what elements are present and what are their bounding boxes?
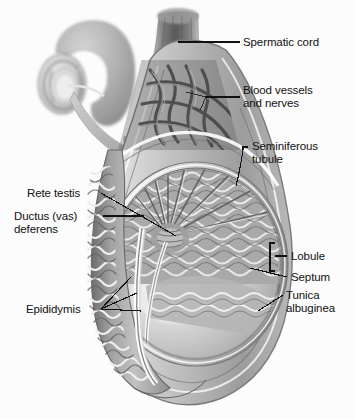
- anatomy-figure: Spermatic cord Blood vessels and nerves …: [0, 0, 354, 419]
- rete-testis: [151, 223, 189, 253]
- label-blood-vessels-line2: and nerves: [243, 97, 299, 110]
- label-tunica-line2: albuginea: [286, 302, 335, 315]
- label-spermatic-cord: Spermatic cord: [243, 36, 319, 49]
- label-blood-vessels-line1: Blood vessels: [243, 84, 313, 97]
- label-septum: Septum: [291, 271, 330, 284]
- label-rete-testis: Rete testis: [27, 187, 80, 200]
- label-lobule: Lobule: [291, 250, 325, 263]
- label-tunica-line1: Tunica: [286, 289, 320, 302]
- label-ductus-line2: deferens: [14, 223, 58, 236]
- label-seminiferous-line2: tubule: [252, 153, 283, 166]
- label-seminiferous-line1: Seminiferous: [252, 140, 318, 153]
- label-epididymis: Epididymis: [26, 303, 81, 316]
- label-ductus-line1: Ductus (vas): [14, 210, 77, 223]
